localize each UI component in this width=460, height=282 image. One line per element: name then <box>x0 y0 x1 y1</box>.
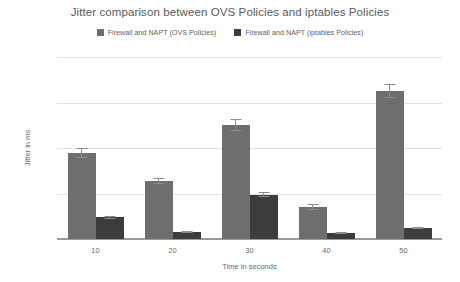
x-axis-tick-label: 10 <box>57 246 134 255</box>
error-bar <box>181 231 192 233</box>
y-axis-label: Jitter in ms <box>23 130 32 166</box>
plot-area: 0.0000.0020.0040.0060.008 1020304050 Jit… <box>57 57 442 239</box>
bar-slot <box>404 57 432 239</box>
bar[interactable] <box>250 195 278 239</box>
x-axis-label: Time in seconds <box>57 262 442 271</box>
bar-group: 50 <box>365 57 442 239</box>
bar[interactable] <box>327 233 355 239</box>
bar-slot <box>327 57 355 239</box>
jitter-bar-chart: Jitter comparison between OVS Policies a… <box>0 0 460 282</box>
error-bar <box>258 192 269 197</box>
error-bar <box>153 178 164 184</box>
bar-group: 10 <box>57 57 134 239</box>
bar[interactable] <box>145 181 173 239</box>
x-axis-tick-label: 50 <box>365 246 442 255</box>
legend-swatch-ovs <box>97 29 104 36</box>
bar-group: 20 <box>134 57 211 239</box>
bar-slot <box>145 57 173 239</box>
error-bar <box>335 232 346 234</box>
bar-slot <box>173 57 201 239</box>
bar-groups: 1020304050 <box>57 57 442 239</box>
legend-label-ovs: Firewall and NAPT (OVS Policies) <box>108 28 217 37</box>
error-bar <box>230 119 241 131</box>
x-axis-tick-label: 30 <box>211 246 288 255</box>
error-bar <box>307 204 318 210</box>
bar[interactable] <box>68 153 96 239</box>
chart-title: Jitter comparison between OVS Policies a… <box>0 6 460 18</box>
bar[interactable] <box>404 228 432 239</box>
legend-label-iptables: Firewall and NAPT (iptables Policies) <box>245 28 363 37</box>
legend-swatch-iptables <box>234 29 241 36</box>
error-bar <box>104 216 115 220</box>
x-axis-tick-label: 20 <box>134 246 211 255</box>
error-bar <box>412 227 423 229</box>
bar-slot <box>96 57 124 239</box>
bar[interactable] <box>222 125 250 239</box>
legend-item-ovs[interactable]: Firewall and NAPT (OVS Policies) <box>97 28 217 37</box>
bar-slot <box>222 57 250 239</box>
bar-slot <box>68 57 96 239</box>
bar[interactable] <box>173 232 201 239</box>
chart-legend: Firewall and NAPT (OVS Policies) Firewal… <box>0 28 460 37</box>
bar[interactable] <box>376 91 404 239</box>
bar[interactable] <box>96 217 124 239</box>
bar[interactable] <box>299 207 327 239</box>
x-axis-tick-label: 40 <box>288 246 365 255</box>
bar-slot <box>299 57 327 239</box>
gridline <box>57 239 442 240</box>
bar-slot <box>250 57 278 239</box>
bar-slot <box>376 57 404 239</box>
error-bar <box>384 84 395 98</box>
bar-group: 40 <box>288 57 365 239</box>
legend-item-iptables[interactable]: Firewall and NAPT (iptables Policies) <box>234 28 363 37</box>
bar-group: 30 <box>211 57 288 239</box>
error-bar <box>76 148 87 158</box>
